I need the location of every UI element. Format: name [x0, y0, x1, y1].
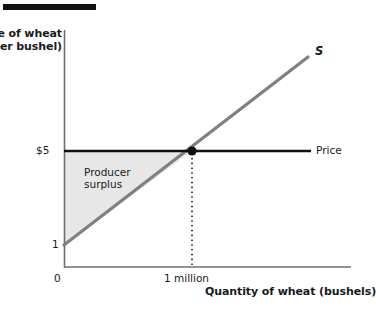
y-tick-label-5: $5	[36, 144, 49, 156]
y-tick-label-1: 1	[52, 238, 59, 250]
x-tick-label-origin: 0	[54, 272, 61, 284]
supply-curve-label: S	[315, 45, 323, 59]
x-tick-label-one-million: 1 million	[164, 272, 209, 284]
producer-surplus-label: Producer surplus	[84, 166, 131, 191]
x-axis-title: Quantity of wheat (bushels)	[205, 286, 376, 299]
y-axis-title: Price of wheat (per bushel)	[0, 28, 62, 54]
equilibrium-point	[187, 146, 196, 155]
price-line-label: Price	[316, 144, 342, 156]
